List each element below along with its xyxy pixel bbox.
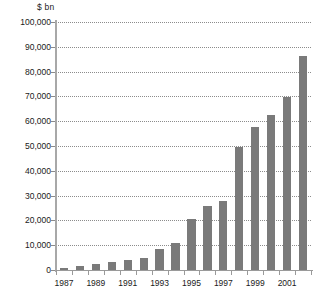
bar-chart: $ bn 100,00090,00080,00070,00060,00050,0…: [0, 0, 323, 302]
x-axis-tick-mark: [263, 271, 264, 275]
bar[interactable]: [171, 243, 179, 270]
x-axis-tick-mark: [72, 271, 73, 275]
bar[interactable]: [60, 268, 68, 270]
bars-layer: [56, 22, 311, 270]
x-axis-tick-mark: [56, 271, 57, 275]
x-axis-tick-label: 1999: [246, 278, 265, 288]
x-axis-tick-label: 1989: [86, 278, 105, 288]
bar[interactable]: [187, 219, 195, 270]
x-axis-tick-label: 1995: [182, 278, 201, 288]
x-axis-tick-mark: [311, 271, 312, 275]
y-axis-tick-label: 100,000: [20, 17, 55, 27]
bar[interactable]: [299, 56, 307, 270]
bar[interactable]: [76, 266, 84, 270]
x-axis-tick-mark: [104, 271, 105, 275]
x-axis-tick-label: 1991: [118, 278, 137, 288]
x-axis-tick-mark: [152, 271, 153, 275]
x-axis-tick-label: 2001: [278, 278, 297, 288]
bar[interactable]: [235, 147, 243, 271]
x-axis-tick-mark: [88, 271, 89, 275]
bar[interactable]: [108, 262, 116, 270]
x-axis-tick-mark: [231, 271, 232, 275]
bar[interactable]: [219, 201, 227, 270]
y-axis-tick-labels: 100,00090,00080,00070,00060,00050,00040,…: [0, 0, 55, 302]
bar[interactable]: [267, 115, 275, 270]
bar[interactable]: [283, 97, 291, 270]
x-axis-tick-mark: [279, 271, 280, 275]
x-axis-tick-mark: [215, 271, 216, 275]
x-axis-tick-mark: [120, 271, 121, 275]
x-axis-line: [56, 270, 313, 271]
bar[interactable]: [92, 264, 100, 270]
bar[interactable]: [155, 249, 163, 270]
x-axis-tick-mark: [184, 271, 185, 275]
x-axis-tick-mark: [168, 271, 169, 275]
bar[interactable]: [124, 260, 132, 270]
bar[interactable]: [251, 127, 259, 270]
x-axis-tick-mark: [247, 271, 248, 275]
x-axis-tick-label: 1987: [55, 278, 74, 288]
bar[interactable]: [140, 258, 148, 270]
x-axis-tick-mark: [136, 271, 137, 275]
x-axis-tick-mark: [199, 271, 200, 275]
bar[interactable]: [203, 206, 211, 270]
x-axis-tick-mark: [295, 271, 296, 275]
x-axis-tick-label: 1997: [214, 278, 233, 288]
x-axis-tick-label: 1993: [150, 278, 169, 288]
